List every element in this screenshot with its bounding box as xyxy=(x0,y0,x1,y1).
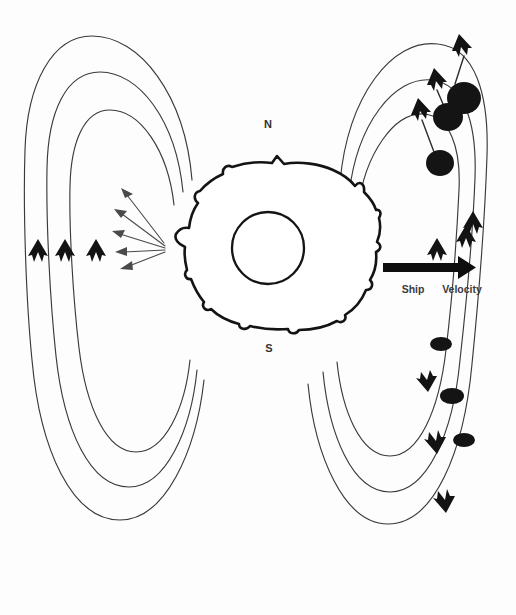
chevron-right-up-1-icon xyxy=(427,238,447,261)
chevron-left-1-icon xyxy=(28,239,48,262)
particle-upper-2 xyxy=(433,103,463,131)
left-field-chevrons xyxy=(28,239,106,262)
magnetosphere-scene: N S xyxy=(0,0,516,615)
particle-lower-1 xyxy=(430,337,452,351)
chevron-right-up-4-icon xyxy=(411,98,431,121)
ship-velocity-shaft xyxy=(383,263,461,272)
chevron-right-down-2-icon xyxy=(424,430,446,454)
south-pole-label: S xyxy=(265,342,272,354)
particle-upper-3 xyxy=(426,150,454,176)
field-line-left-inner xyxy=(70,110,190,452)
chevron-left-3-icon xyxy=(86,239,106,262)
field-line-left-middle xyxy=(47,72,197,487)
emission-arrow-1 xyxy=(121,188,164,243)
emission-arrow-3 xyxy=(112,230,165,248)
central-body xyxy=(175,156,380,333)
particle-lower-3 xyxy=(453,433,475,447)
chevron-right-up-5-icon xyxy=(427,68,447,91)
left-field-lines xyxy=(24,36,204,520)
chevron-right-down-3-icon xyxy=(433,489,455,513)
trajectory-line-1 xyxy=(455,56,464,84)
emission-arrow-1-shaft xyxy=(127,195,164,243)
trajectory-line-2 xyxy=(437,90,443,104)
emission-arrow-4-head xyxy=(115,247,127,256)
diagram-canvas: N S xyxy=(0,0,516,615)
emission-arrow-5-shaft xyxy=(129,252,165,266)
ship-velocity-arrow xyxy=(383,256,476,279)
velocity-label: Velocity xyxy=(442,283,482,295)
chevron-right-up-2-icon xyxy=(456,225,476,248)
planet-core-circle xyxy=(232,212,304,284)
emission-arrows xyxy=(112,188,165,270)
emission-arrow-3-head xyxy=(112,230,125,238)
emission-arrow-5-head xyxy=(120,261,133,270)
particle-lower-2 xyxy=(440,388,464,404)
ship-velocity-head-icon xyxy=(458,256,476,279)
ship-label: Ship xyxy=(402,283,425,295)
particles-upper xyxy=(426,82,481,176)
chevron-right-up-6-icon xyxy=(452,34,472,57)
chevron-right-down-1-icon xyxy=(416,370,437,392)
trajectory-line-3 xyxy=(422,120,434,152)
emission-arrow-4-shaft xyxy=(124,250,165,252)
emission-arrow-1-head xyxy=(121,188,133,198)
north-pole-label: N xyxy=(264,118,272,130)
